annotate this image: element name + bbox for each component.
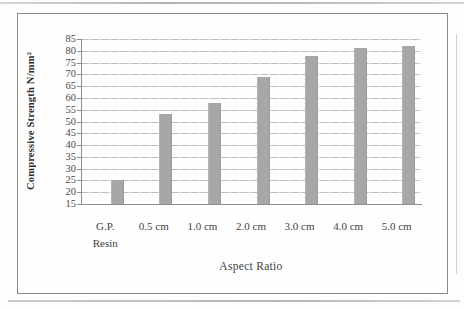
y-axis-tick: [77, 63, 81, 64]
scan-artifact-bottom-line: [8, 300, 460, 302]
scan-artifact-top-line: [0, 2, 464, 4]
y-axis-title: Compressive Strength N/mm²: [22, 39, 38, 204]
x-axis-category-label: G.P. Resin: [79, 218, 131, 252]
y-axis-tick: [77, 169, 81, 170]
y-axis-tick-label: 50: [40, 117, 76, 127]
y-axis-tick-label: 70: [40, 69, 76, 79]
gridline-50: [81, 122, 421, 123]
bar-5.0-cm: [402, 46, 415, 204]
gridline-80: [81, 51, 421, 52]
x-axis-line: [81, 204, 422, 205]
bar-1.0-cm: [208, 103, 221, 204]
gridline-25: [81, 180, 421, 181]
y-axis-line: [81, 39, 82, 205]
y-axis-tick-label: 45: [40, 128, 76, 138]
plot-area: [81, 39, 421, 204]
bar-2.0-cm: [257, 77, 270, 204]
scan-artifact-right-line: [456, 34, 457, 274]
y-axis-tick: [77, 110, 81, 111]
y-axis-tick-label: 25: [40, 175, 76, 185]
chart-frame: Compressive Strength N/mm² 1520253035404…: [17, 13, 448, 294]
y-axis-tick-label: 75: [40, 58, 76, 68]
y-axis-tick: [77, 86, 81, 87]
bar-3.0-cm: [305, 56, 318, 205]
bar-4.0-cm: [354, 48, 367, 204]
y-axis-tick: [77, 133, 81, 134]
x-axis-title: Aspect Ratio: [81, 260, 421, 272]
gridline-35: [81, 157, 421, 158]
gridline-45: [81, 133, 421, 134]
gridline-20: [81, 192, 421, 193]
y-axis-tick: [77, 157, 81, 158]
gridline-70: [81, 74, 421, 75]
gridline-65: [81, 86, 421, 87]
gridline-30: [81, 169, 421, 170]
scanned-figure: Compressive Strength N/mm² 1520253035404…: [0, 0, 464, 309]
y-axis-tick-label: 85: [40, 34, 76, 44]
x-axis-category-label: 4.0 cm: [322, 218, 374, 235]
y-axis-tick-label: 80: [40, 46, 76, 56]
y-axis-tick-label: 65: [40, 81, 76, 91]
y-axis-tick: [77, 180, 81, 181]
y-axis-tick-label: 40: [40, 140, 76, 150]
y-axis-tick-label: 20: [40, 187, 76, 197]
y-axis-tick-label: 15: [40, 199, 76, 209]
x-axis-category-label: 0.5 cm: [128, 218, 180, 235]
y-axis-title-text: Compressive Strength N/mm²: [25, 52, 36, 190]
gridline-40: [81, 145, 421, 146]
y-axis-tick-label: 55: [40, 105, 76, 115]
y-axis-tick-label: 30: [40, 164, 76, 174]
y-axis-tick-label: 60: [40, 93, 76, 103]
bar-g.p.-resin: [111, 180, 124, 204]
x-axis-category-label: 3.0 cm: [274, 218, 326, 235]
gridline-75: [81, 63, 421, 64]
gridline-55: [81, 110, 421, 111]
x-axis-category-label: 2.0 cm: [225, 218, 277, 235]
x-axis-category-label: 5.0 cm: [371, 218, 423, 235]
gridline-60: [81, 98, 421, 99]
y-axis-tick: [77, 39, 81, 40]
x-axis-category-label: 1.0 cm: [176, 218, 228, 235]
y-axis-tick: [77, 122, 81, 123]
y-axis-tick: [77, 145, 81, 146]
y-axis-tick: [77, 204, 81, 205]
y-axis-tick: [77, 98, 81, 99]
bar-0.5-cm: [159, 114, 172, 204]
y-axis-tick: [77, 74, 81, 75]
y-axis-tick: [77, 51, 81, 52]
y-axis-tick-label: 35: [40, 152, 76, 162]
y-axis-tick: [77, 192, 81, 193]
gridline-85: [81, 39, 421, 40]
